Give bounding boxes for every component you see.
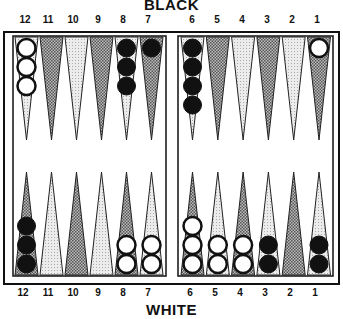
black-checker[interactable] xyxy=(259,236,277,254)
point-number: 7 xyxy=(136,287,160,298)
black-checker[interactable] xyxy=(310,255,328,273)
white-checker[interactable] xyxy=(310,39,328,57)
point-number: 11 xyxy=(36,287,60,298)
point-number: 8 xyxy=(111,287,135,298)
white-side-label: WHITE xyxy=(0,301,343,318)
black-checker[interactable] xyxy=(118,39,136,57)
point-number: 4 xyxy=(228,287,252,298)
white-checker[interactable] xyxy=(118,255,136,273)
point-number: 3 xyxy=(253,287,277,298)
white-checker[interactable] xyxy=(143,255,161,273)
white-checker[interactable] xyxy=(143,236,161,254)
black-checker[interactable] xyxy=(118,58,136,76)
white-checker[interactable] xyxy=(234,236,252,254)
black-checker[interactable] xyxy=(18,255,36,273)
white-checker[interactable] xyxy=(184,217,202,235)
black-checker[interactable] xyxy=(118,77,136,95)
white-checker[interactable] xyxy=(184,236,202,254)
black-checker[interactable] xyxy=(184,96,202,114)
point-number: 6 xyxy=(178,287,202,298)
white-checker[interactable] xyxy=(234,255,252,273)
point-number: 1 xyxy=(303,287,327,298)
bottom-point-numbers: 12 11 10 9 8 7 6 5 4 3 2 1 xyxy=(0,287,343,301)
white-checker[interactable] xyxy=(209,255,227,273)
backgammon-board xyxy=(0,0,343,319)
black-checker[interactable] xyxy=(184,77,202,95)
white-checker[interactable] xyxy=(184,255,202,273)
black-checker[interactable] xyxy=(18,217,36,235)
black-checker[interactable] xyxy=(18,236,36,254)
white-checker[interactable] xyxy=(118,236,136,254)
point-number: 10 xyxy=(61,287,85,298)
black-checker[interactable] xyxy=(259,255,277,273)
black-checker[interactable] xyxy=(184,58,202,76)
point-number: 5 xyxy=(203,287,227,298)
black-checker[interactable] xyxy=(143,39,161,57)
white-checker[interactable] xyxy=(209,236,227,254)
black-checker[interactable] xyxy=(184,39,202,57)
white-checker[interactable] xyxy=(18,39,36,57)
point-number: 2 xyxy=(278,287,302,298)
point-number: 9 xyxy=(86,287,110,298)
white-checker[interactable] xyxy=(18,58,36,76)
black-checker[interactable] xyxy=(310,236,328,254)
white-checker[interactable] xyxy=(18,77,36,95)
point-number: 12 xyxy=(11,287,35,298)
